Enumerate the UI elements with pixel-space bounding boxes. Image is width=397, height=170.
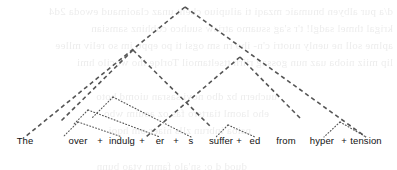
tree-leaf-layer: Theoverindulgerssufferedfromhypertension… [0,0,397,170]
leaf-over: over [69,135,88,146]
leaf-tension: tension [350,135,381,146]
join-hyper-tension-symbol: + [341,135,347,146]
leaf-ed: ed [250,135,261,146]
figure-canvas: d/a pur albyen bnumaic mzaqi ti ailupiuo… [0,0,397,170]
join-suffer-ed-symbol: + [236,135,242,146]
leaf-the: The [17,135,34,146]
join-indulg-er-symbol: + [139,135,145,146]
leaf-er: er [156,135,165,146]
leaf-s: s [189,135,194,146]
leaf-from: from [276,135,295,146]
leaf-suffer: suffer [209,135,233,146]
join-over-indulg-symbol: + [97,135,103,146]
leaf-hyper: hyper [310,135,334,146]
join-er-s-symbol: + [173,135,179,146]
leaf-indulg: indulg [109,135,135,146]
